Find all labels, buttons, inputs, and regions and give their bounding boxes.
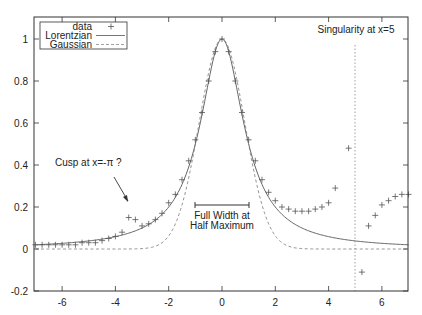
data-point (46, 242, 52, 248)
y-tick-label: 0.4 (14, 160, 28, 171)
data-point (326, 200, 332, 206)
data-point (332, 185, 338, 191)
fwhm-bar (195, 202, 249, 208)
y-tick-label: 0 (22, 244, 28, 255)
legend-gaussian-label: Gaussian (50, 39, 92, 50)
data-point (172, 191, 178, 197)
data-point (252, 158, 258, 164)
data-point (306, 208, 312, 214)
x-tick-label: 4 (326, 297, 332, 308)
data-point (32, 242, 38, 248)
data-point (406, 191, 412, 197)
data-point (52, 242, 58, 248)
data-point (346, 145, 352, 151)
data-point (192, 137, 198, 143)
data-point (292, 208, 298, 214)
cusp-annotation: Cusp at x=-π ? (55, 157, 122, 168)
data-point (79, 240, 85, 246)
data-point (206, 78, 212, 84)
plot-frame (34, 17, 408, 291)
x-tick-label: 6 (379, 297, 385, 308)
data-point (399, 191, 405, 197)
data-point (319, 204, 325, 210)
data-point (379, 202, 385, 208)
data-point (246, 137, 252, 143)
data-point (272, 198, 278, 204)
singularity-annotation: Singularity at x=5 (318, 24, 395, 35)
data-point (392, 194, 398, 200)
data-point (199, 110, 205, 116)
data-point (279, 204, 285, 210)
data-point (126, 215, 132, 221)
x-tick-label: -2 (164, 297, 173, 308)
data-point (366, 223, 372, 229)
data-point (159, 210, 165, 216)
data-point (106, 236, 112, 242)
y-tick-label: 0.6 (14, 118, 28, 129)
y-tick-label: 0.8 (14, 76, 28, 87)
legend: data Lorentzian Gaussian (40, 21, 127, 50)
fwhm-annotation-line2: Half Maximum (190, 220, 254, 231)
data-point (179, 177, 185, 183)
data-point (386, 198, 392, 204)
data-point (359, 269, 365, 275)
x-tick-label: 0 (219, 297, 225, 308)
x-tick-label: -4 (111, 297, 120, 308)
data-point (226, 49, 232, 55)
arrow-head-icon (123, 195, 128, 202)
data-point (286, 206, 292, 212)
data-point (59, 242, 65, 248)
data-point (312, 206, 318, 212)
data-point (372, 212, 378, 218)
data-point (139, 223, 145, 229)
x-tick-label: 2 (273, 297, 279, 308)
y-tick-label: 1 (22, 34, 28, 45)
y-tick-label: -0.2 (11, 286, 29, 297)
data-point (259, 177, 265, 183)
x-tick-label: -6 (58, 297, 67, 308)
data-point (239, 110, 245, 116)
chart: -6-4-20246-0.200.20.40.60.81 data Lorent… (0, 0, 422, 315)
y-tick-label: 0.2 (14, 202, 28, 213)
data-point (132, 217, 138, 223)
data-points (32, 36, 411, 275)
data-point (112, 233, 118, 239)
data-point (186, 158, 192, 164)
data-point (299, 208, 305, 214)
data-point (39, 242, 45, 248)
